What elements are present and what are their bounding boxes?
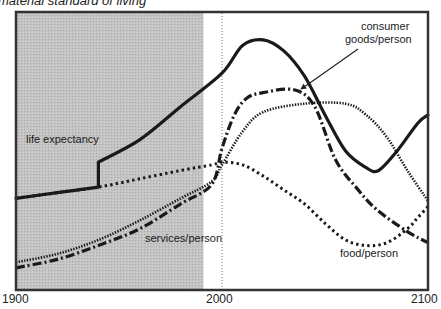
x-tick-2100: 2100 (411, 292, 438, 306)
arrow-head (300, 84, 307, 90)
label-consumer-goods-line1: consumer (361, 20, 409, 33)
chart-canvas (0, 0, 441, 309)
label-food-per-person: food/person (340, 247, 398, 260)
label-life-expectancy: life expectancy (26, 133, 99, 146)
label-services-per-person: services/person (145, 232, 222, 245)
historical-shaded-region (16, 12, 203, 290)
label-consumer-goods-line2: goods/person (345, 33, 412, 46)
x-tick-1900: 1900 (2, 292, 29, 306)
arrow-shaft (305, 49, 358, 86)
chart-title: material standard of living (0, 0, 146, 8)
x-tick-2000: 2000 (206, 292, 233, 306)
